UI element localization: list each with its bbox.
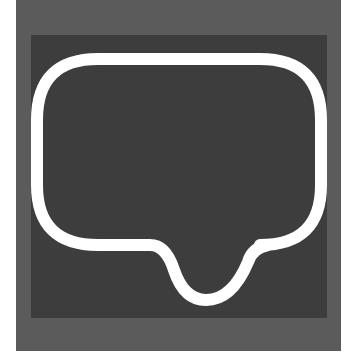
speech-bubble-icon (0, 0, 361, 359)
icon-canvas: Speech bubble icon (0, 0, 361, 359)
